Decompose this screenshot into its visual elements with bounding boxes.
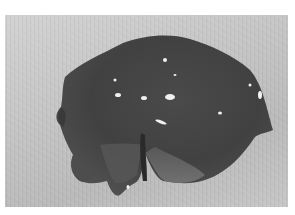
tissue-specimen: [5, 15, 288, 207]
specimen-photo: [5, 15, 288, 207]
